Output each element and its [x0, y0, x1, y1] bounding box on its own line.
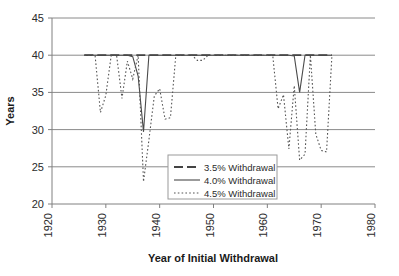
x-tick-label: 1940	[150, 213, 162, 237]
y-tick-label: 40	[32, 49, 44, 61]
y-tick-label: 30	[32, 124, 44, 136]
x-axis-title: Year of Initial Withdrawal	[148, 252, 278, 264]
x-tick-label: 1960	[257, 213, 269, 237]
x-tick-label: 1950	[204, 213, 216, 237]
y-axis-ticks: 202530354045	[32, 12, 52, 210]
y-axis-title: Years	[4, 96, 16, 125]
legend-label-3: 4.5% Withdrawal	[204, 188, 275, 199]
line-chart: 202530354045 192019301940195019601970198…	[0, 0, 399, 276]
x-axis-ticks: 1920193019401950196019701980	[42, 204, 377, 237]
x-tick-label: 1980	[365, 213, 377, 237]
chart-container: 202530354045 192019301940195019601970198…	[0, 0, 399, 276]
y-tick-label: 25	[32, 161, 44, 173]
x-tick-label: 1920	[42, 213, 54, 237]
x-tick-label: 1930	[96, 213, 108, 237]
y-tick-label: 35	[32, 86, 44, 98]
legend-label-2: 4.0% Withdrawal	[204, 175, 275, 186]
legend-label-1: 3.5% Withdrawal	[204, 162, 275, 173]
y-tick-label: 20	[32, 198, 44, 210]
chart-legend: 3.5% Withdrawal4.0% Withdrawal4.5% Withd…	[168, 155, 277, 199]
x-tick-label: 1970	[311, 213, 323, 237]
y-tick-label: 45	[32, 12, 44, 24]
